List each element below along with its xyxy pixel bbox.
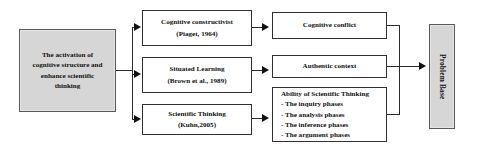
theory-citation: (Piaget, 1964) (176, 29, 217, 39)
outcome-box-cognitive-conflict: Cognitive conflict (272, 12, 387, 39)
theory-box-cognitive-constructivist: Cognitive constructivist (Piaget, 1964) (142, 10, 252, 46)
arrowhead-to-theory-2 (134, 115, 141, 123)
connector-source-stem (116, 70, 133, 71)
arrowhead-to-outcome-2 (262, 114, 269, 122)
diagram-canvas: The activation of cognitive structure an… (0, 0, 477, 155)
theory-box-scientific-thinking: Scientific Thinking (Kuhn,2005) (142, 104, 252, 135)
connector-left-bus (132, 27, 133, 119)
outcome-heading: Ability of Scientific Thinking (281, 89, 369, 99)
source-box-line-4: thinking (55, 81, 81, 91)
outcome-box-ability-of-scientific-thinking: Ability of Scientific Thinking - The inq… (272, 87, 387, 142)
connector-bus-to-problem-base (399, 66, 421, 67)
outcome-phase-argument: - The argument phases (281, 130, 350, 140)
theory-citation: (Brown et al., 1989) (167, 76, 226, 86)
problem-base-box: Problem Base (429, 24, 455, 129)
arrowhead-to-theory-0 (134, 23, 141, 31)
connector-right-bus (399, 25, 400, 115)
arrowhead-to-theory-1 (134, 70, 141, 78)
outcome-box-authentic-context: Authentic context (272, 55, 387, 78)
arrowhead-to-outcome-0 (262, 23, 269, 31)
arrowhead-to-problem-base (419, 62, 426, 70)
theory-citation: (Kuhn,2005) (178, 120, 216, 130)
outcome-label: Cognitive conflict (303, 20, 356, 30)
outcome-phase-analysis: - The analysis phases (281, 110, 345, 120)
outcome-phase-inquiry: - The inquiry phases (281, 99, 343, 109)
source-box-line-2: cognitive structure and (32, 60, 102, 70)
outcome-phase-inference: - The inference phases (281, 120, 348, 130)
source-box-line-1: The activation of (42, 50, 93, 60)
theory-title: Scientific Thinking (168, 109, 226, 119)
theory-title: Situated Learning (170, 64, 225, 74)
source-box: The activation of cognitive structure an… (19, 29, 116, 112)
outcome-label: Authentic context (303, 61, 357, 71)
source-box-line-3: enhance scientific (41, 71, 94, 81)
arrowhead-to-outcome-1 (262, 66, 269, 74)
theory-box-situated-learning: Situated Learning (Brown et al., 1989) (142, 57, 252, 93)
theory-title: Cognitive constructivist (161, 17, 233, 27)
problem-base-label: Problem Base (437, 54, 448, 99)
